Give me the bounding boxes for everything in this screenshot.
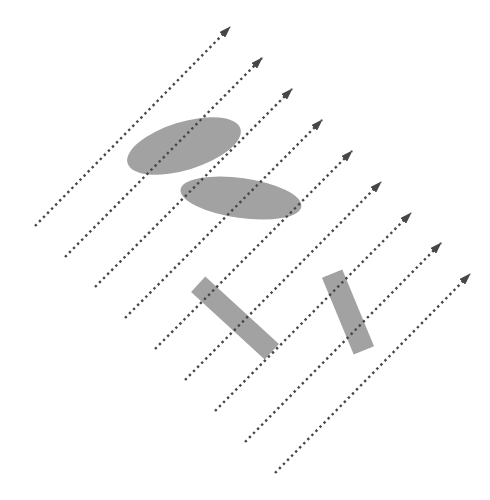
ray-obstacle-diagram: [0, 0, 490, 500]
obstacles-group: [121, 106, 374, 360]
diagram-canvas: [0, 0, 490, 500]
dotted-arrow-ray-9: [275, 274, 470, 473]
dotted-arrow-ray-7: [215, 213, 411, 411]
ellipse-lower: [178, 170, 304, 227]
rect-left: [191, 276, 279, 359]
dotted-arrow-ray-2: [65, 58, 262, 257]
rays-group: [35, 27, 470, 473]
rect-right: [322, 269, 374, 354]
ellipse-upper: [121, 106, 248, 186]
